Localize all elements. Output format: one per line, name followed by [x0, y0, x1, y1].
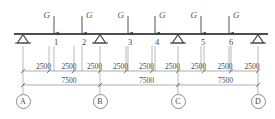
grid-d: D	[251, 94, 266, 109]
load-label-1: G	[44, 11, 51, 20]
grid-a-label: A	[20, 97, 26, 106]
load-label-4: G	[159, 11, 166, 20]
load-label-3: G	[118, 11, 125, 20]
grid-c: C	[171, 94, 186, 109]
load-label-5: G	[191, 11, 198, 20]
load-label-6: G	[233, 11, 240, 20]
load-label-2: G	[86, 11, 93, 20]
grid-c-label: C	[175, 97, 180, 106]
grid-b: B	[93, 94, 108, 109]
grid-a: A	[16, 94, 31, 109]
support-c-triangle	[172, 35, 183, 43]
grid-d-label: D	[255, 97, 261, 106]
load-arrow-group	[54, 16, 229, 33]
beam-diagram-canvas: GGGGGG1234562500250025002500250025002500…	[0, 0, 275, 119]
support-a-triangle	[17, 35, 28, 43]
grid-b-label: B	[97, 97, 102, 106]
support-d-triangle	[252, 35, 263, 43]
support-b-triangle	[94, 35, 105, 43]
